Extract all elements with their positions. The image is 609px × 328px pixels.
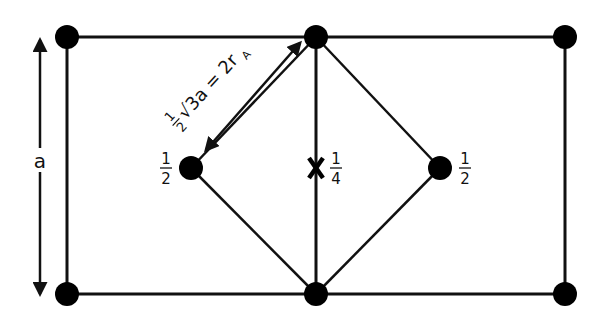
atom-corner-br [553, 282, 577, 306]
atom-edge-bottom-mid [304, 282, 328, 306]
height-label-body-right: 1 2 [459, 150, 471, 188]
svg-text:1: 1 [331, 150, 341, 168]
edge-length-label: a [34, 149, 46, 173]
svg-text:√3a = 2r: √3a = 2r [173, 49, 242, 122]
height-label-body-left: 1 2 [160, 150, 172, 188]
svg-text:4: 4 [331, 170, 341, 188]
svg-text:A: A [239, 48, 254, 63]
svg-text:2: 2 [161, 170, 171, 188]
atom-body-right [428, 156, 452, 180]
svg-text:1: 1 [460, 150, 470, 168]
atom-body-left [179, 156, 203, 180]
atom-corner-tl [55, 25, 79, 49]
svg-text:1: 1 [161, 150, 171, 168]
diagonal-label: 1 2 √3a = 2r A [161, 36, 255, 136]
atom-corner-bl [55, 282, 79, 306]
svg-text:2: 2 [460, 170, 470, 188]
height-label-interstitial: 1 4 [330, 150, 342, 188]
atom-edge-top-mid [304, 25, 328, 49]
unit-cell-diagram: a 1 2 √3a = 2r A 1 2 1 4 1 2 [0, 0, 609, 328]
atom-corner-tr [553, 25, 577, 49]
